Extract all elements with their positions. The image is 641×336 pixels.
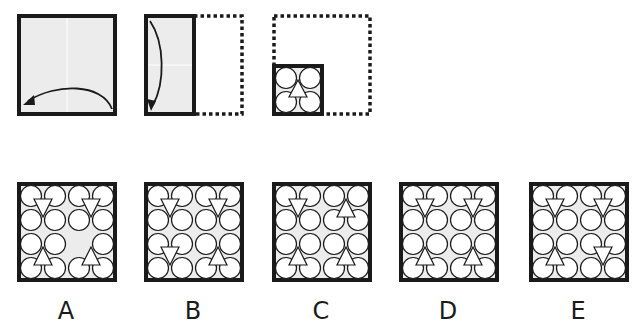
circle-hole-icon xyxy=(93,210,114,231)
circle-hole-icon xyxy=(220,234,241,255)
circle-hole-icon xyxy=(300,234,321,255)
circle-hole-icon xyxy=(276,210,297,231)
circle-hole-icon xyxy=(172,258,193,279)
circle-hole-icon xyxy=(45,210,66,231)
circle-hole-icon xyxy=(403,234,424,255)
circle-hole-icon xyxy=(276,234,297,255)
circle-hole-icon xyxy=(581,210,602,231)
circle-hole-icon xyxy=(427,210,448,231)
circle-hole-icon xyxy=(581,258,602,279)
circle-hole-icon xyxy=(605,210,626,231)
option-d[interactable] xyxy=(398,181,502,285)
circle-hole-icon xyxy=(148,210,169,231)
circle-hole-icon xyxy=(557,210,578,231)
circle-hole-icon xyxy=(557,234,578,255)
circle-hole-icon xyxy=(348,186,369,207)
circle-hole-icon xyxy=(21,210,42,231)
circle-hole-icon xyxy=(475,210,496,231)
option-e[interactable] xyxy=(528,181,632,285)
option-a[interactable] xyxy=(16,181,120,285)
option-label-a: A xyxy=(46,297,86,325)
circle-hole-icon xyxy=(300,210,321,231)
circle-hole-icon xyxy=(45,234,66,255)
circle-hole-icon xyxy=(220,210,241,231)
circle-hole-icon xyxy=(348,234,369,255)
circle-hole-icon xyxy=(148,258,169,279)
option-label-e: E xyxy=(558,297,598,325)
circle-hole-icon xyxy=(69,210,90,231)
fold-step-2 xyxy=(143,13,247,119)
circle-hole-icon xyxy=(605,258,626,279)
circle-hole-icon xyxy=(475,234,496,255)
fold-step-1 xyxy=(16,13,120,119)
circle-hole-icon xyxy=(451,210,472,231)
circle-hole-icon xyxy=(451,234,472,255)
option-label-b: B xyxy=(173,297,213,325)
option-label-c: C xyxy=(301,297,341,325)
circle-hole-icon xyxy=(533,210,554,231)
fold-step-3 xyxy=(271,13,375,119)
option-c[interactable] xyxy=(271,181,375,285)
circle-hole-icon xyxy=(196,234,217,255)
option-label-d: D xyxy=(428,297,468,325)
circle-hole-icon xyxy=(21,234,42,255)
option-b[interactable] xyxy=(143,181,247,285)
circle-hole-icon xyxy=(533,234,554,255)
circle-hole-icon xyxy=(427,234,448,255)
circle-hole-icon xyxy=(172,210,193,231)
circle-hole-icon xyxy=(324,234,345,255)
circle-hole-icon xyxy=(403,210,424,231)
circle-hole-icon xyxy=(196,210,217,231)
circle-hole-icon xyxy=(324,186,345,207)
circle-hole-icon xyxy=(93,234,114,255)
